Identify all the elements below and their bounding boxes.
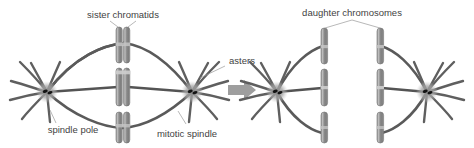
label-sister-chromatids: sister chromatids — [87, 9, 159, 20]
centromere — [321, 86, 328, 89]
centromere — [377, 45, 384, 48]
centromere — [321, 45, 328, 48]
centromere — [321, 126, 328, 129]
chromatid — [116, 112, 122, 143]
centromere — [377, 86, 384, 89]
pole-halo-left — [36, 81, 58, 103]
daughter-chromosome-set-right — [377, 28, 384, 143]
diagram-canvas: sister chromatids spindle pole mitotic s… — [0, 0, 474, 148]
centromere — [116, 71, 131, 75]
centromere — [377, 126, 384, 129]
mitosis-diagram-figure: sister chromatids spindle pole mitotic s… — [0, 0, 474, 148]
label-daughter-chromosomes: daughter chromosomes — [302, 7, 402, 18]
label-spindle-pole: spindle pole — [48, 124, 99, 135]
label-mitotic-spindle: mitotic spindle — [157, 128, 217, 139]
pole-halo-right-metaphase — [181, 81, 203, 103]
centromere — [116, 43, 131, 47]
pole-halo-right-anaphase — [416, 81, 438, 103]
chromatid — [124, 112, 130, 143]
centromere — [116, 124, 131, 127]
daughter-chromosome-set-left — [321, 28, 328, 143]
pole-halo-left-anaphase — [266, 81, 288, 103]
